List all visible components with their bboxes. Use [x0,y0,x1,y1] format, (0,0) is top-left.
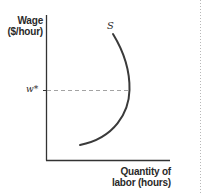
y-axis-label-line2: ($/hour) [0,26,43,37]
x-axis-label-line2: labor (hours) [91,177,171,188]
supply-curve-label: S [107,20,114,31]
supply-curve [80,34,130,145]
diagram-canvas: Wage ($/hour) Quantity of labor (hours) … [0,0,204,195]
wage-star-label: w* [26,84,38,94]
x-axis-label: Quantity of labor (hours) [91,166,171,188]
y-axis-label: Wage ($/hour) [0,15,43,37]
x-axis-label-line1: Quantity of [91,166,171,177]
y-axis-label-line1: Wage [0,15,43,26]
